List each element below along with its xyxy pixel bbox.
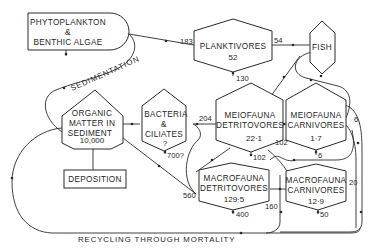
svg-text:12·9: 12·9 [308, 197, 325, 206]
flow-macrocarn-in: 20 [349, 178, 357, 187]
node-fish: FISH [310, 21, 335, 74]
svg-text:MACROFAUNA: MACROFAUNA [286, 176, 347, 185]
svg-text:PLANKTIVORES: PLANKTIVORES [200, 42, 267, 51]
flow-phyto-plank: 183 [180, 37, 193, 46]
flow-meiodetr-carn: 102 [275, 138, 288, 147]
flow-macrodetr-in: 560 [183, 191, 196, 200]
svg-text:&: & [161, 120, 167, 129]
svg-text:&: & [65, 28, 71, 37]
svg-text:DETRITOVORES: DETRITOVORES [200, 184, 268, 193]
flow-bact-loss: 700? [167, 151, 184, 160]
flow-plank-loss: 130 [236, 74, 249, 83]
svg-text:52: 52 [229, 53, 238, 62]
node-macrofauna-detritovores: MACROFAUNA DETRITOVORES 129·5 [199, 163, 269, 210]
node-deposition: DEPOSITION [64, 170, 126, 188]
flow-bact-meio: 204 [199, 114, 212, 123]
node-phytoplankton: PHYTOPLANKTON & BENTHIC ALGAE [28, 13, 129, 50]
food-web-diagram: PHYTOPLANKTON & BENTHIC ALGAE PLANKTIVOR… [0, 0, 372, 252]
svg-text:FISH: FISH [312, 43, 332, 52]
node-bacteria-ciliates: BACTERIA & CILIATES ? [142, 89, 188, 151]
svg-text:ORGANIC: ORGANIC [72, 109, 112, 118]
svg-text:1·7: 1·7 [310, 134, 322, 143]
node-organic-matter: ORGANIC MATTER IN SEDIMENT 10,000 [62, 90, 123, 149]
flow-macrodetr-loss: 400 [236, 210, 249, 219]
svg-text:MEIOFAUNA: MEIOFAUNA [225, 111, 276, 120]
flow-meiocarn-fish: 6 [354, 115, 358, 124]
svg-text:22·1: 22·1 [246, 134, 263, 143]
svg-text:MATTER IN: MATTER IN [69, 119, 115, 128]
node-meiofauna-detritovores: MEIOFAUNA DETRITOVORES 22·1 [216, 83, 284, 152]
flow-meiodetr-loss: 102 [253, 153, 266, 162]
svg-text:129·5: 129·5 [224, 195, 245, 204]
node-meiofauna-carnivores: MEIOFAUNA CARNIVORES 1·7 [286, 83, 346, 150]
svg-text:CILIATES: CILIATES [145, 130, 183, 139]
svg-text:?: ? [163, 139, 168, 148]
svg-text:CARNIVORES: CARNIVORES [287, 121, 344, 130]
flow-meiocarn-loss: 6 [318, 151, 322, 160]
svg-text:MEIOFAUNA: MEIOFAUNA [291, 111, 342, 120]
node-macrofauna-carnivores: MACROFAUNA CARNIVORES 12·9 [286, 164, 347, 210]
svg-text:CARNIVORES: CARNIVORES [287, 186, 344, 195]
recycling-label: RECYCLING THROUGH MORTALITY [78, 235, 235, 244]
svg-text:PHYTOPLANKTON: PHYTOPLANKTON [30, 18, 106, 27]
svg-text:BACTERIA: BACTERIA [144, 110, 188, 119]
node-planktivores: PLANKTIVORES 52 [194, 19, 272, 72]
flow-macrocarn-loss: 50 [320, 210, 328, 219]
edge-macrodetr-bacteria [186, 124, 200, 194]
flow-macrodetr-carn: 160 [265, 202, 278, 211]
svg-text:10,000: 10,000 [80, 136, 105, 145]
svg-text:BENTHIC ALGAE: BENTHIC ALGAE [34, 38, 103, 47]
sedimentation-label: SEDIMENTATION [69, 54, 141, 93]
flow-plank-fish: 54 [274, 36, 282, 45]
svg-text:DETRITOVORES: DETRITOVORES [216, 121, 284, 130]
svg-text:MACROFAUNA: MACROFAUNA [204, 174, 265, 183]
svg-text:DEPOSITION: DEPOSITION [68, 175, 122, 184]
